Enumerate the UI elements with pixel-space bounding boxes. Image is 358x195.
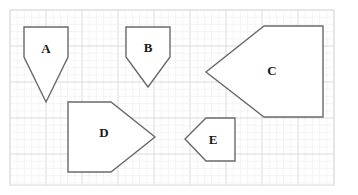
label-a: A bbox=[41, 41, 51, 56]
pentagon-a bbox=[24, 27, 68, 102]
shape-e: E bbox=[185, 118, 235, 161]
shape-grid-diagram: A B C D E bbox=[0, 0, 358, 195]
label-c: C bbox=[267, 63, 276, 78]
shape-a: A bbox=[24, 27, 68, 102]
label-d: D bbox=[99, 125, 108, 140]
label-b: B bbox=[144, 40, 153, 55]
label-e: E bbox=[209, 132, 218, 147]
